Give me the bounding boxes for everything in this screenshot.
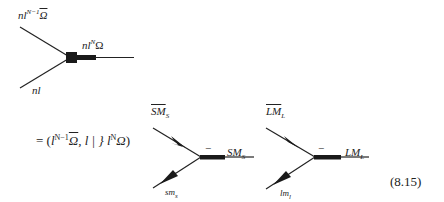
spin-right-label: SMS xyxy=(227,147,245,161)
spin-upper-label: SMS xyxy=(151,106,169,120)
orbital-upper-label: LML xyxy=(266,106,285,120)
top-upper-label: nlN−1Ω xyxy=(18,9,47,21)
top-right-label: nlNΩ xyxy=(82,39,103,51)
equation-coefficient: = (lN−1Ω, l | } lNΩ) xyxy=(36,134,130,147)
orbital-right-label: LML xyxy=(345,147,364,161)
spin-sign: − xyxy=(205,143,211,154)
diagram-lines xyxy=(0,0,444,202)
spin-lower-label: sms xyxy=(165,188,178,200)
orbital-lower-label: lml xyxy=(280,189,291,201)
orbital-sign: − xyxy=(318,143,324,154)
top-lower-label: nl xyxy=(32,85,41,96)
top-vertex-graph xyxy=(20,27,134,88)
equation-number: (8.15) xyxy=(390,175,421,188)
